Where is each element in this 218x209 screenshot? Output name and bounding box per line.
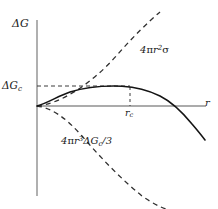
x-axis-label: r [205, 98, 210, 108]
y-axis-label-text: ΔG [12, 17, 29, 30]
critical-radius-label: rc [125, 108, 133, 119]
x-axis-label-text: r [205, 97, 210, 108]
volume-energy-label: 4πr3ΔGc/3 [61, 136, 112, 148]
critical-energy-label-text: ΔGc [2, 79, 22, 91]
critical-energy-label: ΔGc [2, 80, 22, 92]
critical-radius-label-text: rc [125, 107, 133, 118]
volume-energy-label-text: 4πr3ΔGc/3 [61, 135, 112, 146]
plot-canvas [0, 0, 218, 209]
y-axis-label: ΔG [12, 18, 29, 29]
volume-energy-curve [37, 106, 166, 209]
surface-energy-label-text: 4πr2σ [140, 44, 169, 55]
total-free-energy-curve [37, 86, 205, 140]
surface-energy-label: 4πr2σ [140, 45, 169, 55]
nucleation-free-energy-figure: ΔG ΔGc 4πr2σ 4πr3ΔGc/3 rc r [0, 0, 218, 209]
surface-energy-curve [37, 12, 160, 106]
